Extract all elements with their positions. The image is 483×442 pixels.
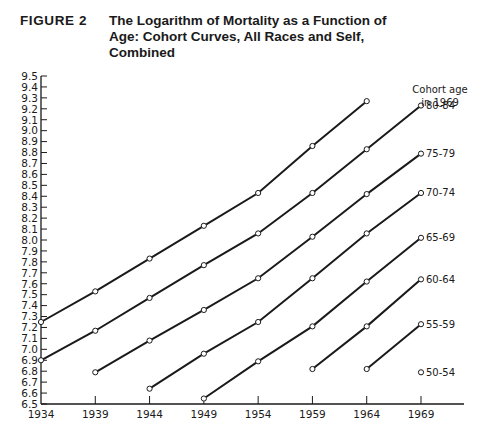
y-tick-label: 8.8 — [21, 146, 38, 158]
chart-axes: 6.56.66.76.86.97.07.17.27.37.47.57.67.77… — [21, 70, 464, 420]
y-tick-label: 6.9 — [21, 354, 38, 366]
y-tick-label: 6.7 — [21, 376, 38, 388]
series-label: 60-64 — [426, 274, 455, 285]
y-tick-label: 7.2 — [21, 321, 38, 333]
x-tick-label: 1944 — [136, 408, 163, 420]
y-tick-label: 9.1 — [21, 114, 38, 126]
series-80-84: 80-84 — [38, 100, 455, 363]
x-tick-label: 1939 — [82, 408, 109, 420]
data-point-marker — [364, 191, 369, 196]
data-point-marker — [93, 328, 98, 333]
data-point-marker — [201, 223, 206, 228]
series-label: 55-59 — [426, 319, 455, 330]
data-point-marker — [256, 359, 261, 364]
data-point-marker — [310, 366, 315, 371]
mortality-line-chart: 6.56.66.76.86.97.07.17.27.37.47.57.67.77… — [0, 0, 483, 442]
data-point-marker — [364, 324, 369, 329]
y-tick-label: 7.0 — [21, 343, 38, 355]
series-oldest-cohort — [38, 99, 369, 325]
series-line — [150, 193, 421, 389]
chart-series: 80-8475-7970-7465-6960-6455-5950-54 — [38, 99, 455, 402]
y-tick-label: 8.1 — [21, 223, 38, 235]
series-line — [41, 101, 367, 322]
y-tick-label: 8.6 — [21, 168, 38, 180]
data-point-marker — [418, 190, 423, 195]
y-tick-label: 9.2 — [21, 103, 38, 115]
y-tick-label: 9.5 — [21, 70, 38, 82]
y-tick-label: 9.3 — [21, 92, 38, 104]
y-tick-label: 7.3 — [21, 310, 38, 322]
data-point-marker — [364, 147, 369, 152]
series-label: 75-79 — [426, 148, 455, 159]
data-point-marker — [418, 277, 423, 282]
y-tick-label: 7.9 — [21, 245, 38, 257]
series-label: 65-69 — [426, 232, 455, 243]
data-point-marker — [93, 289, 98, 294]
legend-title-line-2: in 1969 — [421, 97, 459, 108]
x-tick-label: 1949 — [190, 408, 217, 420]
y-tick-label: 8.3 — [21, 201, 38, 213]
data-point-marker — [310, 143, 315, 148]
data-point-marker — [256, 231, 261, 236]
data-point-marker — [201, 307, 206, 312]
y-tick-label: 9.0 — [21, 124, 38, 136]
series-label: 70-74 — [426, 187, 455, 198]
series-label: 50-54 — [426, 367, 455, 378]
y-tick-label: 8.2 — [21, 212, 38, 224]
series-line — [367, 324, 421, 369]
series-50-54: 50-54 — [418, 367, 455, 378]
y-tick-label: 8.9 — [21, 135, 38, 147]
y-tick-label: 7.4 — [21, 299, 38, 311]
y-tick-label: 6.8 — [21, 365, 38, 377]
data-point-marker — [93, 370, 98, 375]
data-point-marker — [256, 319, 261, 324]
series-55-59: 55-59 — [364, 319, 455, 372]
data-point-marker — [147, 386, 152, 391]
data-point-marker — [418, 235, 423, 240]
legend-title-line-1: Cohort age — [412, 84, 467, 95]
data-point-marker — [418, 151, 423, 156]
data-point-marker — [364, 99, 369, 104]
y-tick-label: 7.5 — [21, 288, 38, 300]
y-tick-label: 7.7 — [21, 267, 38, 279]
data-point-marker — [147, 295, 152, 300]
data-point-marker — [310, 190, 315, 195]
data-point-marker — [147, 338, 152, 343]
data-point-marker — [256, 190, 261, 195]
data-point-marker — [201, 396, 206, 401]
data-point-marker — [256, 276, 261, 281]
y-tick-label: 8.0 — [21, 234, 38, 246]
x-tick-label: 1934 — [28, 408, 55, 420]
data-point-marker — [310, 276, 315, 281]
data-point-marker — [418, 370, 423, 375]
y-tick-label: 8.7 — [21, 157, 38, 169]
x-tick-label: 1969 — [408, 408, 435, 420]
data-point-marker — [364, 366, 369, 371]
x-tick-label: 1959 — [299, 408, 326, 420]
data-point-marker — [147, 256, 152, 261]
series-65-69: 65-69 — [201, 232, 455, 401]
data-point-marker — [38, 319, 43, 324]
data-point-marker — [364, 231, 369, 236]
x-tick-label: 1954 — [245, 408, 272, 420]
x-tick-label: 1964 — [353, 408, 380, 420]
data-point-marker — [201, 263, 206, 268]
data-point-marker — [201, 351, 206, 356]
y-tick-label: 8.5 — [21, 179, 38, 191]
data-point-marker — [418, 322, 423, 327]
y-tick-label: 7.1 — [21, 332, 38, 344]
y-tick-label: 8.4 — [21, 190, 38, 202]
data-point-marker — [310, 324, 315, 329]
data-point-marker — [38, 358, 43, 363]
y-tick-label: 9.4 — [21, 81, 38, 93]
y-tick-label: 7.6 — [21, 278, 38, 290]
y-tick-label: 6.6 — [21, 387, 38, 399]
series-line — [204, 238, 421, 399]
chart-legend: Cohort age in 1969 — [412, 84, 467, 108]
data-point-marker — [364, 279, 369, 284]
data-point-marker — [310, 234, 315, 239]
y-tick-label: 7.8 — [21, 256, 38, 268]
